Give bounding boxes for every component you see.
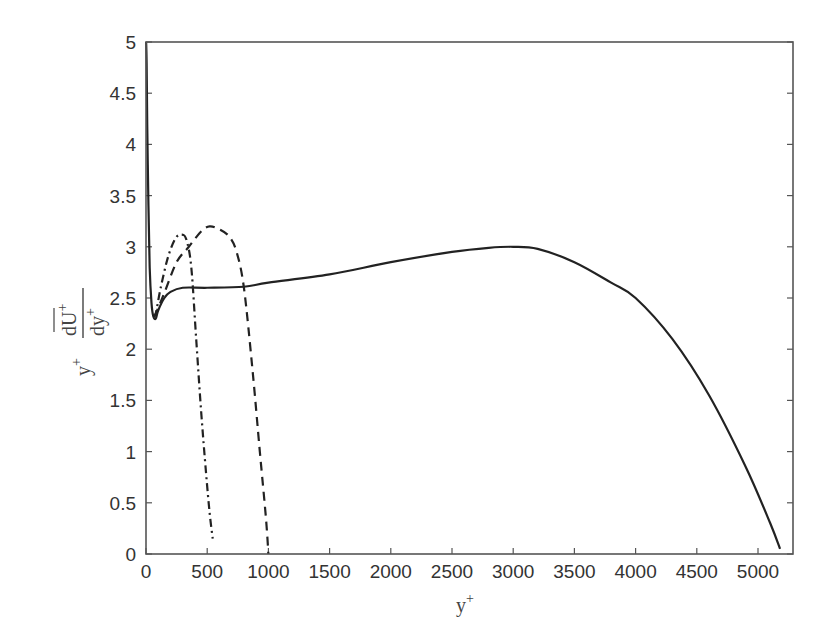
y-tick-label: 4.5: [110, 83, 136, 104]
x-axis-title: y+: [456, 591, 474, 617]
x-tick-label: 1500: [308, 561, 350, 582]
x-tick-label: 1000: [247, 561, 289, 582]
series-line-dash-dot: [153, 234, 212, 538]
y-tick-label: 2.5: [110, 288, 136, 309]
y-tick-label: 3.5: [110, 186, 136, 207]
y-tick-label: 3: [125, 237, 136, 258]
chart-plot: 0500100015002000250030003500400045005000…: [0, 0, 820, 640]
x-tick-label: 500: [191, 561, 223, 582]
x-tick-label: 5000: [737, 561, 779, 582]
svg-text:dy+: dy+: [83, 308, 109, 336]
series-line-dashed: [153, 226, 268, 554]
series-line-solid: [146, 42, 780, 549]
axis-ticks: [146, 42, 793, 554]
plot-frame: [146, 42, 793, 554]
x-tick-label: 3000: [492, 561, 534, 582]
y-tick-label: 5: [125, 32, 136, 53]
x-tick-label: 2500: [431, 561, 473, 582]
svg-text:y+: y+: [69, 358, 95, 376]
x-tick-label: 0: [141, 561, 152, 582]
y-tick-label: 0: [125, 544, 136, 565]
x-tick-label: 3500: [553, 561, 595, 582]
x-tick-labels: 0500100015002000250030003500400045005000: [141, 561, 779, 582]
y-tick-label: 4: [125, 134, 136, 155]
y-tick-label: 2: [125, 339, 136, 360]
y-tick-label: 0.5: [110, 493, 136, 514]
y-tick-labels: 00.511.522.533.544.55: [110, 32, 137, 565]
y-tick-label: 1.5: [110, 390, 136, 411]
x-tick-label: 4500: [676, 561, 718, 582]
data-series: [146, 42, 780, 554]
x-tick-label: 2000: [370, 561, 412, 582]
y-tick-label: 1: [125, 442, 136, 463]
x-tick-label: 4000: [614, 561, 656, 582]
y-axis-title: y+ dU+ dy+: [54, 288, 109, 376]
svg-text:dU+: dU+: [55, 304, 80, 336]
